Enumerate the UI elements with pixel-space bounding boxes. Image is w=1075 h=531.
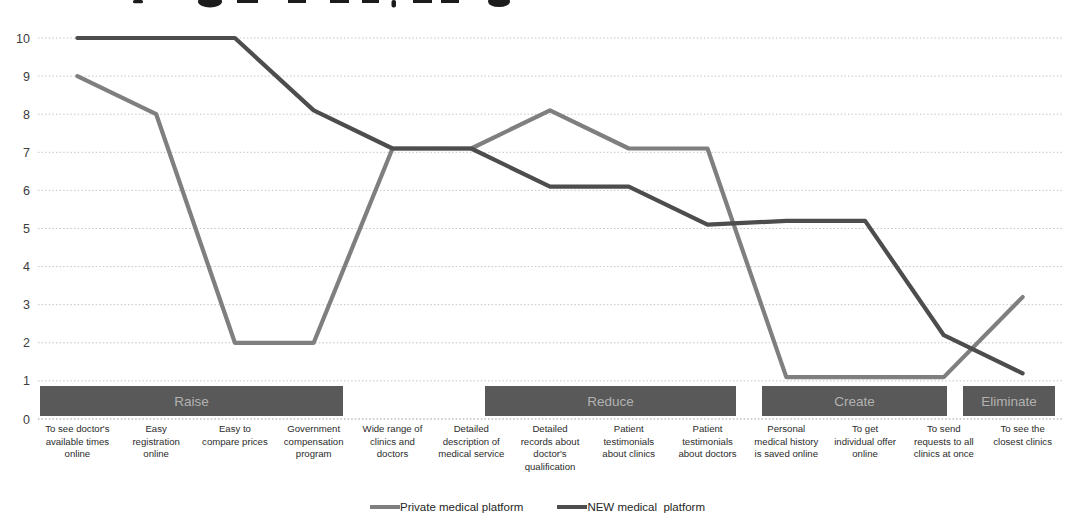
x-axis-label-1: Easy registration online [117,423,196,474]
x-axis-label-2: Easy to compare prices [196,423,275,474]
legend-line-swatch-new [557,505,587,509]
x-axis-label-9: Personal medical history is saved online [747,423,826,474]
clipped-title-fragments [133,0,510,8]
band-label-raise: Raise [174,394,209,409]
strategy-bands: RaiseReduceCreateEliminate [40,386,1055,416]
y-tick-label-3: 3 [23,298,30,312]
legend-item-new: NEW medical platform [557,501,705,513]
x-axis-label-3: Government compensation program [274,423,353,474]
legend-item-private: Private medical platform [370,501,523,513]
x-axis-label-4: Wide range of clinics and doctors [353,423,432,474]
x-axis-label-6: Detailed records about doctor's qualific… [511,423,590,474]
series-line-1 [77,38,1022,373]
chart-canvas: 012345678910 RaiseReduceCreateEliminate … [0,0,1075,531]
y-tick-label-0: 0 [23,413,30,427]
band-label-reduce: Reduce [587,394,634,409]
y-tick-label-2: 2 [23,336,30,350]
y-tick-label-4: 4 [23,260,30,274]
x-axis-label-5: Detailed description of medical service [432,423,511,474]
y-tick-label-9: 9 [23,70,30,84]
x-axis-label-12: To see the closest clinics [983,423,1062,474]
y-axis-tick-labels: 012345678910 [16,32,30,427]
y-tick-label-6: 6 [23,184,30,198]
y-tick-label-8: 8 [23,108,30,122]
gridlines [38,38,1062,419]
band-label-create: Create [834,394,875,409]
legend-line-swatch-private [370,505,400,509]
legend: Private medical platform NEW medical pla… [0,501,1075,513]
y-tick-label-5: 5 [23,222,30,236]
legend-label-private: Private medical platform [400,501,523,513]
x-axis-label-7: Patient testimonials about clinics [589,423,668,474]
y-tick-label-1: 1 [23,374,30,388]
series-line-0 [77,76,1022,377]
x-axis-label-0: To see doctor's available times online [38,423,117,474]
x-axis-labels: To see doctor's available times onlineEa… [38,423,1062,474]
band-label-eliminate: Eliminate [981,394,1037,409]
x-axis-label-11: To send requests to all clinics at once [904,423,983,474]
y-tick-label-10: 10 [16,32,30,46]
data-series-lines [77,38,1022,377]
x-axis-label-10: To get individual offer online [826,423,905,474]
y-tick-label-7: 7 [23,146,30,160]
legend-label-new: NEW medical platform [587,501,705,513]
x-axis-label-8: Patient testimonials about doctors [668,423,747,474]
